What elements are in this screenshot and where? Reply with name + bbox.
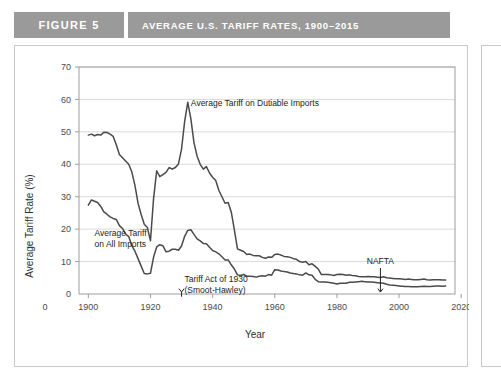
y-tick-label-20: 20 (61, 224, 71, 234)
x-tick-label-2000: 2000 (389, 302, 409, 312)
figure-card: 010203040506070 019001920194019601980200… (14, 45, 468, 367)
chart-area: 010203040506070 019001920194019601980200… (15, 46, 469, 368)
x-axis-tick-labels: 01900192019401960198020002020 (42, 294, 469, 312)
annotation-smoot-hawley-arrow-head (179, 289, 184, 292)
series-annotation-0: Average Tariff on Dutiable Imports (191, 98, 319, 108)
figure-number-label: FIGURE 5 (38, 19, 99, 31)
y-tick-label-10: 10 (61, 257, 71, 267)
series-annotation-1-line2: on All Imports (95, 239, 147, 249)
y-tick-label-50: 50 (61, 127, 71, 137)
y-tick-label-60: 60 (61, 95, 71, 105)
series-line-0 (88, 102, 445, 280)
x-tick-label-1920: 1920 (140, 302, 160, 312)
figure-title-label: AVERAGE U.S. TARIFF RATES, 1900–2015 (142, 20, 359, 31)
series-annotation-1-line1: Average Tariff (95, 228, 148, 238)
figure-header: FIGURE 5 AVERAGE U.S. TARIFF RATES, 1900… (14, 12, 450, 38)
y-axis-tick-labels: 010203040506070 (61, 62, 79, 299)
y-axis-title: Average Tariff Rate (%) (24, 174, 35, 277)
x-tick-label-1960: 1960 (265, 302, 285, 312)
x-tick-label-1900: 1900 (78, 302, 98, 312)
x-tick-label-2020: 2020 (451, 302, 469, 312)
y-tick-label-0: 0 (66, 289, 71, 299)
figure-title-block: AVERAGE U.S. TARIFF RATES, 1900–2015 (128, 12, 450, 38)
annotation-nafta-line1: NAFTA (367, 256, 395, 266)
x-axis-title: Year (245, 329, 266, 340)
annotation-smoot-hawley-line1: Tariff Act of 1930 (185, 274, 248, 284)
x-tick-label-1940: 1940 (203, 302, 223, 312)
page-edge-sliver (481, 45, 501, 367)
y-tick-label-70: 70 (61, 62, 71, 72)
tariff-rates-line-chart: 010203040506070 019001920194019601980200… (15, 46, 469, 368)
x-tick-label-origin: 0 (42, 302, 47, 312)
y-tick-label-40: 40 (61, 159, 71, 169)
figure-number-block: FIGURE 5 (14, 12, 124, 38)
x-tick-label-1980: 1980 (327, 302, 347, 312)
annotation-smoot-hawley-line2: (Smoot-Hawley) (185, 285, 246, 295)
annotations-group: Average Tariff on Dutiable ImportsAverag… (95, 98, 395, 297)
y-tick-label-30: 30 (61, 192, 71, 202)
